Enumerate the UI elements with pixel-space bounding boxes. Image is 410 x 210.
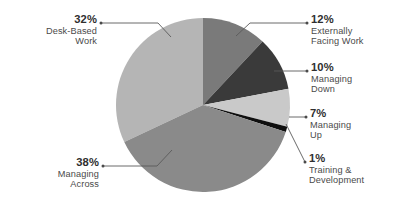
label-managing-across-line2: Across	[0, 179, 99, 189]
label-training-and-development: 1% Training & Development	[309, 152, 364, 186]
label-externally-facing-work: 12% Externally Facing Work	[311, 13, 364, 47]
label-managing-up-line2: Up	[310, 130, 351, 140]
label-desk-based-work-percent: 32%	[0, 13, 97, 26]
leader-dot-managing-up	[305, 116, 308, 119]
label-desk-based-work: 32% Desk-Based Work	[0, 13, 97, 47]
leader-dot-managing-down	[306, 70, 309, 73]
label-managing-down: 10% Managing Down	[311, 61, 352, 95]
label-managing-across: 38% Managing Across	[0, 156, 99, 190]
label-externally-facing-work-line2: Facing Work	[311, 36, 364, 46]
leader-dot-externally-facing-work	[306, 22, 309, 25]
pie-chart-figure: 32% Desk-Based Work 38% Managing Across …	[0, 0, 410, 210]
label-desk-based-work-line1: Desk-Based	[0, 26, 97, 36]
label-managing-up: 7% Managing Up	[310, 107, 351, 141]
label-training-and-development-line1: Training &	[309, 165, 364, 175]
label-desk-based-work-line2: Work	[0, 36, 97, 46]
label-managing-down-line1: Managing	[311, 74, 352, 84]
label-managing-across-line1: Managing	[0, 169, 99, 179]
label-managing-down-percent: 10%	[311, 61, 352, 74]
leader-dot-managing-across	[102, 165, 105, 168]
label-managing-up-line1: Managing	[310, 120, 351, 130]
leader-line-training-and-development	[286, 124, 305, 162]
label-training-and-development-percent: 1%	[309, 152, 364, 165]
label-managing-down-line2: Down	[311, 84, 352, 94]
label-managing-up-percent: 7%	[310, 107, 351, 120]
label-externally-facing-work-line1: Externally	[311, 26, 364, 36]
leader-dot-training-and-development	[304, 161, 307, 164]
label-managing-across-percent: 38%	[0, 156, 99, 169]
leader-dot-desk-based-work	[100, 22, 103, 25]
label-externally-facing-work-percent: 12%	[311, 13, 364, 26]
label-training-and-development-line2: Development	[309, 175, 364, 185]
